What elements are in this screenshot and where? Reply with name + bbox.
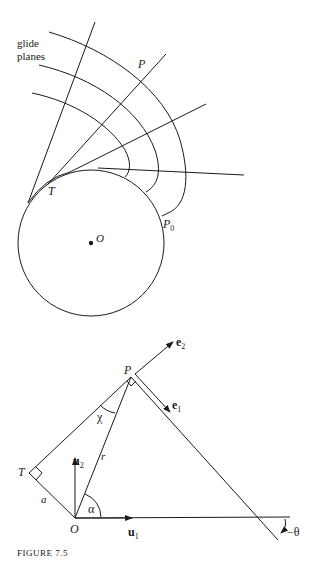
label-a: a bbox=[41, 493, 47, 505]
label-O: O bbox=[96, 232, 104, 244]
label-e1: e1 bbox=[172, 398, 181, 414]
label-P0: P0 bbox=[162, 217, 174, 233]
label-e2: e2 bbox=[176, 335, 185, 351]
label-r: r bbox=[101, 450, 106, 462]
segment-TP bbox=[29, 377, 131, 473]
glide-label-line1: glide bbox=[17, 37, 39, 49]
label-T-bottom: T bbox=[18, 465, 26, 479]
label-P-bottom: P bbox=[123, 363, 132, 377]
glide-line bbox=[131, 377, 278, 540]
glide-plane-inner bbox=[32, 93, 130, 177]
top-diagram: glide planes P T O P0 bbox=[17, 22, 244, 316]
e1-parallel bbox=[135, 374, 170, 412]
right-angle-T-icon bbox=[36, 467, 42, 480]
label-theta: −θ bbox=[287, 525, 300, 539]
label-u1: u1 bbox=[128, 525, 139, 541]
e2-arrow bbox=[135, 342, 173, 374]
glide-label-line2: planes bbox=[17, 50, 45, 62]
label-alpha: α bbox=[88, 502, 95, 516]
theta-arc bbox=[281, 519, 286, 533]
center-dot-icon bbox=[89, 241, 93, 245]
label-P: P bbox=[137, 57, 146, 71]
figure-caption: FIGURE 7.5 bbox=[17, 548, 68, 558]
tangent-line-2 bbox=[48, 54, 166, 184]
bottom-diagram: P T O a r χ α −θ u1 u2 e1 e2 bbox=[18, 335, 300, 541]
label-T: T bbox=[48, 184, 56, 198]
figure-7-5: glide planes P T O P0 P bbox=[0, 0, 320, 562]
label-chi: χ bbox=[96, 410, 103, 424]
segment-OP bbox=[75, 377, 131, 518]
tangent-line-4 bbox=[98, 168, 244, 175]
label-u2: u2 bbox=[73, 454, 84, 470]
label-O-bottom: O bbox=[70, 522, 79, 536]
